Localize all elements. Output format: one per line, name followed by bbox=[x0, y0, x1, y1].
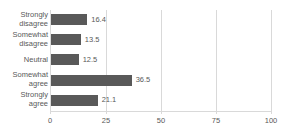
chart-title-clipped bbox=[8, 0, 248, 6]
bar-strongly-agree[interactable] bbox=[51, 95, 98, 106]
xtick-label-50: 50 bbox=[157, 116, 165, 126]
category-label-neutral: Neutral bbox=[0, 56, 48, 65]
category-label-somewhat-disagree: Somewhat disagree bbox=[0, 31, 48, 48]
bar-value-somewhat-disagree: 13.5 bbox=[85, 34, 100, 45]
bar-somewhat-disagree[interactable] bbox=[51, 34, 81, 45]
xtick-75 bbox=[216, 111, 217, 114]
gridline-50 bbox=[161, 10, 162, 111]
category-label-strongly-agree: Strongly agree bbox=[0, 91, 48, 108]
xtick-label-0: 0 bbox=[48, 116, 52, 126]
xtick-0 bbox=[50, 111, 51, 114]
bar-value-strongly-disagree: 16.4 bbox=[91, 14, 106, 25]
xtick-50 bbox=[161, 111, 162, 114]
category-label-somewhat-agree: Somewhat agree bbox=[0, 71, 48, 88]
xtick-25 bbox=[106, 111, 107, 114]
bar-neutral[interactable] bbox=[51, 54, 79, 65]
xtick-label-25: 25 bbox=[102, 116, 110, 126]
category-axis-labels: Strongly disagree Somewhat disagree Neut… bbox=[0, 10, 48, 111]
bar-chart: Strongly disagree Somewhat disagree Neut… bbox=[0, 0, 287, 140]
value-axis-labels: 0 25 50 75 100 bbox=[50, 116, 272, 128]
xtick-100 bbox=[271, 111, 272, 114]
xtick-label-75: 75 bbox=[212, 116, 220, 126]
bar-value-somewhat-agree: 36.5 bbox=[136, 74, 151, 85]
bar-value-strongly-agree: 21.1 bbox=[102, 94, 117, 105]
xtick-label-100: 100 bbox=[265, 116, 278, 126]
bar-somewhat-agree[interactable] bbox=[51, 75, 132, 86]
bar-value-neutral: 12.5 bbox=[83, 54, 98, 65]
bar-strongly-disagree[interactable] bbox=[51, 14, 87, 25]
plot-area: 16.4 13.5 12.5 36.5 21.1 bbox=[50, 10, 272, 111]
category-label-strongly-disagree: Strongly disagree bbox=[0, 11, 48, 28]
gridline-75 bbox=[216, 10, 217, 111]
gridline-100 bbox=[271, 10, 272, 111]
